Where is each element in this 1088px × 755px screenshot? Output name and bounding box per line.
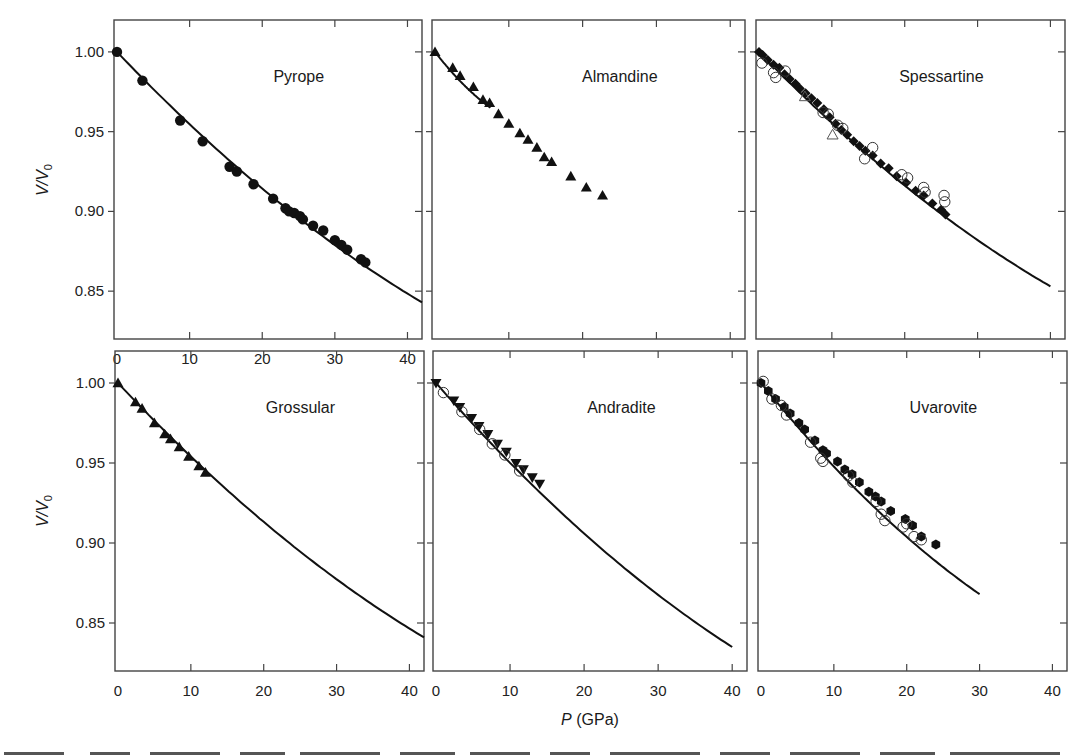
- data-point: [940, 197, 950, 207]
- x-tick-label: 0: [432, 682, 440, 699]
- x-tick-label: 40: [401, 682, 418, 699]
- data-point: [308, 221, 318, 231]
- data-point: [757, 58, 767, 68]
- panel-andradite: 010203040Andradite: [427, 351, 747, 699]
- x-tick-label: 30: [650, 682, 667, 699]
- data-point: [430, 46, 441, 56]
- y-tick-label: 0.85: [75, 282, 104, 299]
- x-tick-label: 20: [255, 682, 272, 699]
- data-point: [493, 109, 504, 119]
- data-point: [175, 115, 185, 125]
- data-point: [454, 403, 465, 413]
- data-point: [112, 47, 122, 57]
- figure: 0102030400.850.900.951.00PyropeAlmandine…: [0, 0, 1088, 755]
- data-point: [113, 378, 124, 388]
- data-point: [833, 456, 842, 466]
- panels: 0102030400.850.900.951.00PyropeAlmandine…: [75, 20, 1067, 699]
- y-tick-label: 1.00: [75, 43, 104, 60]
- data-point: [876, 159, 886, 169]
- data-point: [514, 128, 525, 138]
- data-point: [816, 453, 826, 463]
- y-tick-label: 0.95: [75, 123, 104, 140]
- x-tick-label: 30: [971, 682, 988, 699]
- data-point: [932, 540, 941, 550]
- series-filled-circles: [112, 47, 371, 268]
- data-point: [149, 418, 160, 428]
- data-point: [581, 182, 592, 192]
- panel-pyrope: 0102030400.850.900.951.00Pyrope: [75, 20, 422, 367]
- data-point: [232, 166, 242, 176]
- panel-uvarovite: 010203040Uvarovite: [752, 351, 1067, 699]
- data-point: [884, 163, 894, 173]
- y-axis-label-top: V/V0: [34, 164, 54, 196]
- data-point: [468, 81, 479, 91]
- x-tick-label: 0: [757, 682, 765, 699]
- panel-title: Andradite: [587, 399, 656, 416]
- y-tick-label: 0.95: [76, 454, 105, 471]
- data-point: [248, 179, 258, 189]
- plot-frame: [114, 20, 422, 339]
- y-tick-label: 0.90: [76, 534, 105, 551]
- data-point: [298, 214, 308, 224]
- x-tick-label: 10: [181, 350, 198, 367]
- y-tick-label: 1.00: [76, 374, 105, 391]
- data-point: [503, 118, 514, 128]
- fit-curve: [118, 383, 424, 637]
- y-axis-label-bottom: V/V0: [34, 495, 54, 527]
- x-tick-label: 30: [327, 350, 344, 367]
- data-point: [565, 171, 576, 181]
- data-point: [183, 451, 194, 461]
- x-tick-label: 40: [399, 350, 416, 367]
- data-point: [597, 190, 608, 200]
- panel-grossular: 0102030400.850.900.951.00Grossular: [76, 351, 424, 699]
- x-tick-label: 20: [898, 682, 915, 699]
- x-tick-label: 10: [183, 682, 200, 699]
- data-point: [886, 506, 895, 516]
- data-point: [539, 152, 550, 162]
- data-point: [268, 193, 278, 203]
- panel-title: Almandine: [582, 68, 658, 85]
- panel-title: Pyrope: [273, 68, 324, 85]
- data-point: [193, 461, 204, 471]
- x-tick-label: 0: [114, 682, 122, 699]
- panel-almandine: Almandine: [426, 20, 745, 339]
- panel-title: Spessartine: [899, 68, 984, 85]
- data-point: [908, 520, 917, 530]
- data-point: [342, 244, 352, 254]
- data-point: [818, 456, 828, 466]
- fit-curve: [117, 52, 422, 302]
- x-tick-label: 30: [328, 682, 345, 699]
- x-tick-label: 40: [724, 682, 741, 699]
- panel-title: Grossular: [266, 399, 336, 416]
- x-axis-label: P (GPa): [561, 711, 619, 728]
- data-point: [197, 136, 207, 146]
- panel-spessartine: Spessartine: [750, 20, 1065, 339]
- data-point: [360, 257, 370, 267]
- x-tick-label: 20: [576, 682, 593, 699]
- panel-title: Uvarovite: [910, 399, 978, 416]
- data-point: [927, 198, 937, 208]
- x-tick-label: 40: [1044, 682, 1061, 699]
- y-tick-label: 0.90: [75, 202, 104, 219]
- data-point: [137, 75, 147, 85]
- x-tick-label: 10: [826, 682, 843, 699]
- data-point: [447, 62, 458, 72]
- x-tick-label: 10: [502, 682, 519, 699]
- data-point: [859, 154, 869, 164]
- data-point: [318, 225, 328, 235]
- x-tick-label: 0: [113, 350, 121, 367]
- y-tick-label: 0.85: [76, 614, 105, 631]
- x-tick-label: 20: [254, 350, 271, 367]
